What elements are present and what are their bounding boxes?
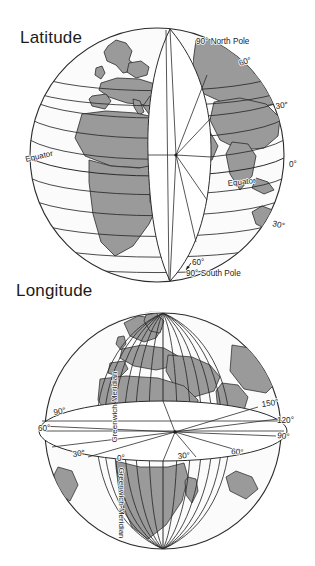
label-south-30: 30° (272, 219, 286, 230)
earth-centre-dot-lon (173, 430, 176, 433)
label-west-30: 30° (72, 448, 86, 459)
label-equator-right-degree: 0° (289, 160, 297, 169)
latitude-figure: Latitude (0, 0, 315, 283)
label-south-60: 60° (192, 258, 204, 267)
label-north-60: 60° (238, 56, 253, 68)
longitude-globe-graphic: 90°60°30°0°30°60°90°120°150°Greenwich Me… (0, 271, 315, 566)
land-japan-lon (258, 333, 267, 352)
label-north-30: 30° (275, 100, 289, 111)
label-east-120: 120° (277, 416, 294, 425)
earth-centre-dot (174, 153, 177, 156)
label-north-pole: 90° North Pole (196, 37, 250, 46)
longitude-figure: Longitude (0, 271, 315, 566)
label-east-60: 60° (231, 447, 244, 457)
label-east-30: 30° (177, 451, 190, 461)
label-greenwich-meridian-lower: Greenwich Meridian (117, 467, 126, 538)
label-east-90: 90° (277, 431, 290, 441)
label-greenwich-meridian-upper: Greenwich Meridian (110, 371, 119, 442)
label-greenwich-zero: 0° (117, 454, 125, 463)
label-west-60: 60° (38, 424, 50, 433)
latitude-globe-graphic: 90° North Pole60°30°0°30°60°90° South Po… (0, 0, 315, 283)
